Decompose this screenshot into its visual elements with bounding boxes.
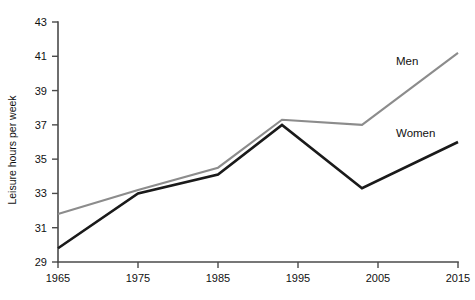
x-tick-label: 1995 <box>286 272 310 284</box>
x-tick-label: 1975 <box>126 272 150 284</box>
leisure-hours-line-chart: 2931333537394143 19651975198519952005201… <box>0 0 475 300</box>
series-line-women <box>58 125 458 248</box>
y-axis-tick-labels: 2931333537394143 <box>35 16 47 268</box>
chart-canvas: 2931333537394143 19651975198519952005201… <box>0 0 475 300</box>
y-axis-ticks <box>52 22 58 262</box>
x-tick-label: 2005 <box>366 272 390 284</box>
y-tick-label: 37 <box>35 119 47 131</box>
x-axis-tick-labels: 196519751985199520052015 <box>46 272 470 284</box>
x-tick-label: 1985 <box>206 272 230 284</box>
y-tick-label: 39 <box>35 85 47 97</box>
series-label-men: Men <box>396 55 418 67</box>
x-tick-label: 1965 <box>46 272 70 284</box>
y-tick-label: 35 <box>35 153 47 165</box>
y-axis-title: Leisure hours per week <box>6 95 18 205</box>
y-tick-label: 29 <box>35 256 47 268</box>
x-axis-ticks <box>58 262 458 268</box>
y-tick-label: 41 <box>35 50 47 62</box>
y-tick-label: 31 <box>35 222 47 234</box>
y-tick-label: 33 <box>35 187 47 199</box>
series-label-women: Women <box>396 127 435 139</box>
x-tick-label: 2015 <box>446 272 470 284</box>
y-tick-label: 43 <box>35 16 47 28</box>
